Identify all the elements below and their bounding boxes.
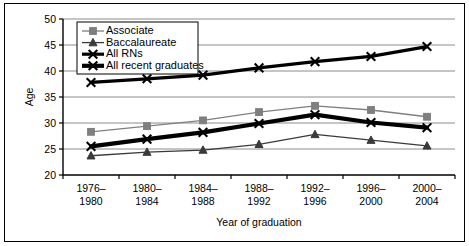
x-tick-label: 1988– <box>244 182 273 194</box>
series-associate <box>88 102 431 135</box>
data-point-marker-square <box>424 113 431 120</box>
y-tick-label: 20 <box>44 169 56 181</box>
y-axis-title: Age <box>23 88 35 107</box>
x-tick-label: 1984 <box>135 195 159 207</box>
x-tick-label: 1980 <box>79 195 103 207</box>
x-tick-label: 1980– <box>132 182 161 194</box>
series-baccalaureate <box>87 130 431 159</box>
y-tick-label: 45 <box>44 39 56 51</box>
data-point-marker-square <box>144 123 151 130</box>
legend-label: All RNs <box>106 47 143 59</box>
x-tick-label: 1996– <box>356 182 385 194</box>
x-tick-label: 2000 <box>359 195 383 207</box>
data-point-marker-triangle <box>311 130 319 137</box>
x-axis-group: 1976–19801980–19841984–19881988–19921992… <box>63 175 455 207</box>
y-tick-label: 50 <box>44 13 56 25</box>
data-point-marker-square <box>88 128 95 135</box>
y-axis-group: 20253035404550 <box>44 13 63 181</box>
y-tick-label: 35 <box>44 91 56 103</box>
chart-figure: 20253035404550 1976–19801980–19841984–19… <box>0 0 469 246</box>
x-tick-label: 1996 <box>303 195 327 207</box>
data-point-marker-square <box>256 109 263 116</box>
legend-label: All recent graduates <box>106 59 204 71</box>
x-tick-label: 1988 <box>191 195 215 207</box>
plot-area-wrapper: 20253035404550 1976–19801980–19841984–19… <box>0 0 469 246</box>
x-tick-label: 1992– <box>300 182 329 194</box>
x-tick-label: 1984– <box>188 182 217 194</box>
x-tick-label: 2000– <box>412 182 441 194</box>
x-axis-title: Year of graduation <box>216 216 302 228</box>
legend-label: Baccalaureate <box>106 36 176 48</box>
y-tick-label: 25 <box>44 143 56 155</box>
legend-group: AssociateBaccalaureateAll RNsAll recent … <box>77 22 204 74</box>
x-tick-label: 2004 <box>415 195 439 207</box>
legend-label: Associate <box>106 24 154 36</box>
data-point-marker-square <box>90 28 97 35</box>
x-tick-label: 1976– <box>76 182 105 194</box>
data-point-marker-square <box>368 107 375 114</box>
line-chart-svg: 20253035404550 1976–19801980–19841984–19… <box>0 0 469 246</box>
data-point-marker-square <box>312 102 319 109</box>
y-tick-label: 40 <box>44 65 56 77</box>
x-tick-label: 1992 <box>247 195 271 207</box>
y-tick-label: 30 <box>44 117 56 129</box>
data-point-marker-square <box>200 117 207 124</box>
